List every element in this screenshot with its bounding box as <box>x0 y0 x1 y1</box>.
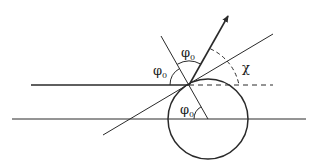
label-phi0-left: φ0 <box>153 63 167 80</box>
label-chi: χ <box>242 60 250 75</box>
label-phi0-bottom: φ0 <box>180 102 194 119</box>
scattering-diagram: φ0 φ0 φ0 χ <box>0 0 317 167</box>
angle-arc-phi0-top <box>177 61 201 64</box>
scattered-direction-arrow <box>189 16 228 85</box>
angle-arc-phi0-bottom <box>194 107 201 119</box>
label-phi0-top: φ0 <box>181 45 195 62</box>
angle-arc-phi0-left <box>170 69 180 86</box>
